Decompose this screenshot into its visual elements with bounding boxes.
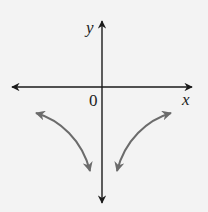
right-curve-branch <box>117 113 171 171</box>
left-curve-branch <box>36 113 90 171</box>
function-graph: y 0 x <box>0 0 208 212</box>
y-axis-label: y <box>84 18 94 37</box>
graph-canvas: y 0 x <box>0 0 208 212</box>
origin-label: 0 <box>89 91 98 110</box>
x-axis-label: x <box>181 90 190 109</box>
